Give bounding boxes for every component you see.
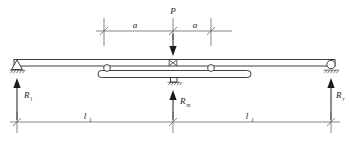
right-reaction-arrow-head bbox=[327, 78, 334, 88]
span-label-left-subscript: 1 bbox=[89, 117, 92, 123]
lower-equalizing-beam bbox=[98, 71, 251, 78]
span-label-right: l bbox=[246, 111, 249, 121]
left-support-hatching bbox=[11, 70, 25, 73]
load-arrow-head bbox=[169, 46, 176, 56]
middle-support-block bbox=[171, 78, 178, 83]
top-dimension-group: a a bbox=[96, 18, 232, 46]
upper-beam-group bbox=[14, 60, 335, 67]
span-label-left: l bbox=[84, 111, 87, 121]
left-reaction-label: R bbox=[23, 90, 30, 100]
right-reaction-group: R r bbox=[327, 78, 345, 120]
upper-beam bbox=[14, 60, 335, 67]
left-reaction-arrow-head bbox=[13, 78, 20, 88]
lower-equalizing-beam-group bbox=[98, 65, 251, 78]
load-label-P: P bbox=[169, 6, 176, 16]
dimension-label-a-left: a bbox=[133, 20, 138, 30]
dimension-label-a-right: a bbox=[193, 20, 198, 30]
right-support-roller bbox=[327, 60, 335, 68]
middle-reaction-subscript: m bbox=[187, 102, 191, 108]
span-label-right-subscript: 1 bbox=[251, 117, 254, 123]
right-support-hatching bbox=[325, 70, 339, 73]
middle-reaction-arrow-head bbox=[169, 90, 176, 100]
middle-reaction-label: R bbox=[179, 96, 186, 106]
beam-diagram-figure: a a P bbox=[0, 0, 349, 149]
diagram-canvas: a a P bbox=[0, 0, 349, 149]
bottom-dimension-group: l 1 l 1 bbox=[10, 111, 340, 133]
lower-beam-right-roller bbox=[208, 65, 215, 72]
right-reaction-subscript: r bbox=[343, 96, 346, 102]
middle-fixed-support bbox=[168, 78, 182, 86]
left-reaction-subscript: l bbox=[31, 96, 33, 102]
lower-beam-left-roller bbox=[104, 65, 111, 72]
right-reaction-label: R bbox=[335, 90, 342, 100]
middle-support-hatching bbox=[169, 82, 182, 85]
left-reaction-group: R l bbox=[13, 78, 32, 120]
middle-reaction-group: R m bbox=[169, 90, 190, 120]
